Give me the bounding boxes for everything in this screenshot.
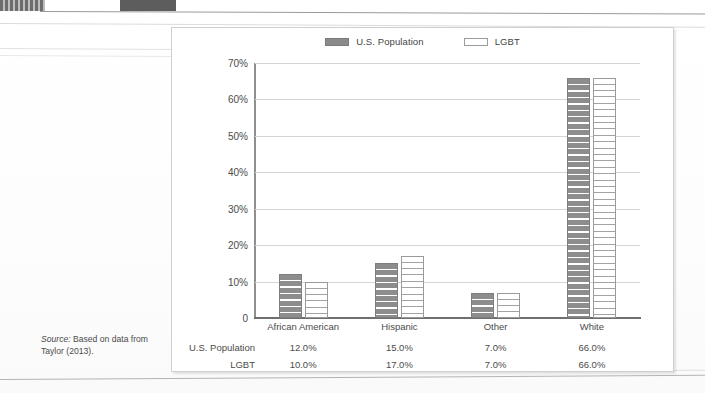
y-tick-label-60: 60% — [228, 94, 248, 105]
bar-group-white — [544, 63, 640, 318]
bar-white-u-s-population — [567, 78, 590, 318]
bar-hispanic-lgbt — [401, 256, 424, 318]
bar-african-american-u-s-population — [279, 274, 302, 318]
bar-other-lgbt — [497, 293, 520, 319]
bar-white-lgbt — [593, 78, 616, 318]
table-row: LGBT10.0%17.0%7.0%66.0% — [180, 356, 640, 373]
x-label-hispanic: Hispanic — [351, 321, 447, 332]
legend-item-us-population: U.S. Population — [325, 36, 424, 47]
table-row-cells: 12.0%15.0%7.0%66.0% — [255, 342, 640, 353]
x-label-african-american: African American — [255, 321, 351, 332]
bar-group-other — [448, 63, 544, 318]
bar-other-u-s-population — [471, 293, 494, 319]
data-table: U.S. Population12.0%15.0%7.0%66.0%LGBT10… — [180, 339, 640, 373]
y-tick-label-0: 0 — [242, 313, 248, 324]
y-tick-label-10: 10% — [228, 276, 248, 287]
bar-groups — [255, 63, 640, 318]
x-label-white: White — [544, 321, 640, 332]
x-label-other: Other — [448, 321, 544, 332]
y-tick-label-20: 20% — [228, 240, 248, 251]
table-row-label-lgbt: LGBT — [180, 359, 255, 370]
legend-item-lgbt: LGBT — [464, 36, 520, 47]
table-cell: 7.0% — [448, 359, 544, 370]
legend-label-us-population: U.S. Population — [356, 36, 424, 47]
legend-swatch-lgbt-icon — [464, 38, 488, 46]
table-cell: 66.0% — [544, 359, 640, 370]
chart-panel: U.S. Population LGBT 70%60%50%40%30%20%1… — [171, 27, 674, 372]
x-axis-labels: African AmericanHispanicOtherWhite — [255, 321, 640, 332]
legend-label-lgbt: LGBT — [495, 36, 520, 47]
table-cell: 12.0% — [255, 342, 351, 353]
table-row-cells: 10.0%17.0%7.0%66.0% — [255, 359, 640, 370]
table-cell: 7.0% — [448, 342, 544, 353]
table-row-label-u-s-population: U.S. Population — [180, 342, 255, 353]
header-marker-striped — [0, 0, 45, 11]
gridline-0 — [255, 318, 640, 319]
bar-group-hispanic — [351, 63, 447, 318]
legend-swatch-us-population-icon — [325, 38, 349, 46]
y-tick-label-40: 40% — [228, 167, 248, 178]
table-row: U.S. Population12.0%15.0%7.0%66.0% — [180, 339, 640, 356]
source-note: Source: Based on data from Taylor (2013)… — [41, 333, 161, 358]
header-marker-solid — [120, 0, 176, 11]
table-cell: 17.0% — [351, 359, 447, 370]
y-tick-label-70: 70% — [228, 58, 248, 69]
table-cell: 15.0% — [351, 342, 447, 353]
chart-legend: U.S. Population LGBT — [172, 36, 673, 47]
y-tick-label-30: 30% — [228, 203, 248, 214]
plot-area: 70%60%50%40%30%20%10%0 — [255, 63, 640, 318]
table-cell: 10.0% — [255, 359, 351, 370]
y-tick-label-50: 50% — [228, 130, 248, 141]
table-cell: 66.0% — [544, 342, 640, 353]
source-note-prefix: Source: — [41, 334, 71, 344]
bar-african-american-lgbt — [305, 282, 328, 318]
bar-hispanic-u-s-population — [375, 263, 398, 318]
bar-group-african-american — [255, 63, 351, 318]
